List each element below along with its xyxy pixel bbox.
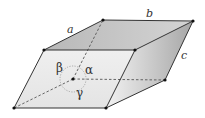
vertex-top-back-right — [191, 19, 194, 22]
vertex-origin — [71, 77, 74, 80]
angle-label-gamma: γ — [76, 86, 83, 100]
vertex-bottom-back-right — [163, 78, 166, 81]
angle-label-beta: β — [56, 61, 63, 75]
edge-label-c: c — [181, 49, 187, 62]
vertex-top-front-left — [42, 48, 45, 51]
vertex-bottom-front-left — [12, 106, 15, 109]
vertex-bottom-front-right — [104, 106, 107, 109]
vertex-top-front-right — [133, 48, 136, 51]
edge-label-a: a — [67, 23, 74, 36]
unit-cell-diagram: a b c β α γ — [0, 0, 205, 118]
angle-label-alpha: α — [85, 63, 93, 77]
edge-label-b: b — [146, 7, 153, 20]
vertex-top-back-left — [101, 18, 104, 21]
